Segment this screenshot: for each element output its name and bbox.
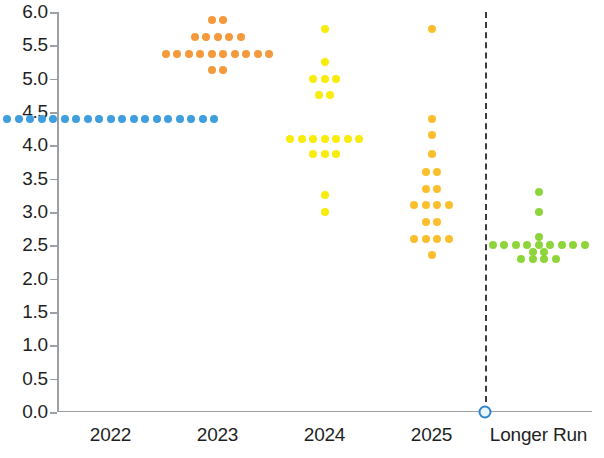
data-dot bbox=[242, 50, 250, 58]
data-dot bbox=[422, 168, 430, 176]
data-dot bbox=[187, 115, 195, 123]
data-dot bbox=[61, 115, 69, 123]
data-dot bbox=[214, 33, 222, 41]
data-dot bbox=[231, 50, 239, 58]
data-dot bbox=[191, 33, 199, 41]
data-dot bbox=[309, 150, 317, 158]
data-dot bbox=[153, 115, 161, 123]
y-tick-label: 1.0 bbox=[22, 334, 48, 356]
data-dot bbox=[581, 241, 589, 249]
data-dot bbox=[3, 115, 11, 123]
dot-plot-chart: 0.00.51.01.52.02.53.03.54.04.55.05.56.0 … bbox=[0, 0, 604, 458]
y-tick-mark bbox=[50, 412, 57, 414]
data-dot bbox=[332, 75, 340, 83]
data-dot bbox=[552, 255, 560, 263]
data-dot bbox=[512, 241, 520, 249]
data-dot bbox=[107, 115, 115, 123]
data-dot bbox=[332, 135, 340, 143]
data-dot bbox=[162, 50, 170, 58]
data-dot bbox=[535, 233, 543, 241]
data-dot bbox=[422, 185, 430, 193]
data-dot bbox=[254, 50, 262, 58]
y-tick-mark bbox=[50, 279, 57, 281]
data-dot bbox=[332, 150, 340, 158]
data-dot bbox=[535, 188, 543, 196]
data-dot bbox=[535, 208, 543, 216]
data-dot bbox=[141, 115, 149, 123]
data-dot bbox=[185, 50, 193, 58]
y-tick-mark bbox=[50, 145, 57, 147]
data-dot bbox=[489, 241, 497, 249]
data-dot bbox=[15, 115, 23, 123]
y-tick-mark bbox=[50, 245, 57, 247]
data-dot bbox=[433, 218, 441, 226]
y-tick-label: 1.5 bbox=[22, 301, 48, 323]
data-dot bbox=[569, 241, 577, 249]
data-dot bbox=[164, 115, 172, 123]
y-tick-mark bbox=[50, 345, 57, 347]
data-dot bbox=[219, 66, 227, 74]
plot-area: 0.00.51.01.52.02.53.03.54.04.55.05.56.0 bbox=[57, 12, 592, 412]
x-axis-label-2022: 2022 bbox=[90, 424, 131, 446]
y-tick-mark bbox=[50, 112, 57, 114]
data-dot bbox=[529, 255, 537, 263]
data-dot bbox=[433, 235, 441, 243]
x-axis-label-2025: 2025 bbox=[411, 424, 452, 446]
data-dot bbox=[219, 16, 227, 24]
data-dot bbox=[210, 115, 218, 123]
data-dot bbox=[321, 135, 329, 143]
y-tick-label: 3.5 bbox=[22, 168, 48, 190]
data-dot bbox=[422, 201, 430, 209]
data-dot bbox=[546, 241, 554, 249]
data-dot bbox=[208, 50, 216, 58]
data-dot bbox=[433, 185, 441, 193]
x-axis-label-2023: 2023 bbox=[197, 424, 238, 446]
data-dot bbox=[208, 66, 216, 74]
data-dot bbox=[428, 115, 436, 123]
origin-marker bbox=[479, 406, 492, 419]
data-dot bbox=[428, 251, 436, 259]
data-dot bbox=[95, 115, 103, 123]
data-dot bbox=[433, 201, 441, 209]
x-axis-line bbox=[57, 411, 592, 413]
data-dot bbox=[298, 135, 306, 143]
longer-run-divider bbox=[485, 12, 487, 412]
y-tick-mark bbox=[50, 212, 57, 214]
data-dot bbox=[219, 50, 227, 58]
data-dot bbox=[422, 235, 430, 243]
data-dot bbox=[225, 33, 233, 41]
data-dot bbox=[196, 50, 204, 58]
data-dot bbox=[517, 255, 525, 263]
data-dot bbox=[118, 115, 126, 123]
data-dot bbox=[321, 191, 329, 199]
x-axis-labels: 2022202320242025Longer Run bbox=[57, 424, 592, 454]
data-dot bbox=[321, 208, 329, 216]
y-tick-label: 2.5 bbox=[22, 234, 48, 256]
data-dot bbox=[410, 235, 418, 243]
data-dot bbox=[500, 241, 508, 249]
y-tick-label: 0.5 bbox=[22, 368, 48, 390]
y-tick-label: 3.0 bbox=[22, 201, 48, 223]
data-dot bbox=[410, 201, 418, 209]
data-dot bbox=[344, 135, 352, 143]
data-dot bbox=[72, 115, 80, 123]
data-dot bbox=[321, 25, 329, 33]
data-dot bbox=[445, 235, 453, 243]
y-tick-label: 0.0 bbox=[22, 401, 48, 423]
data-dot bbox=[84, 115, 92, 123]
data-dot bbox=[433, 168, 441, 176]
data-dot bbox=[428, 25, 436, 33]
data-dot bbox=[176, 115, 184, 123]
data-dot bbox=[202, 33, 210, 41]
y-tick-label: 6.0 bbox=[22, 1, 48, 23]
data-dot bbox=[173, 50, 181, 58]
data-dot bbox=[199, 115, 207, 123]
data-dot bbox=[422, 218, 430, 226]
y-axis-line bbox=[57, 12, 59, 412]
y-tick-mark bbox=[50, 79, 57, 81]
data-dot bbox=[540, 255, 548, 263]
data-dot bbox=[49, 115, 57, 123]
data-dot bbox=[315, 91, 323, 99]
data-dot bbox=[208, 16, 216, 24]
data-dot bbox=[309, 135, 317, 143]
